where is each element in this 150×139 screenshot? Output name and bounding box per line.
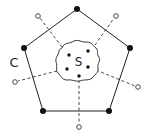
- convex-hull-diagram: S C: [0, 0, 150, 139]
- open-point: [77, 125, 82, 130]
- vertex-point: [106, 108, 112, 114]
- label-outer-set: C: [9, 55, 18, 70]
- ray-left: [18, 71, 57, 81]
- open-point: [114, 14, 119, 19]
- label-inner-set: S: [75, 55, 83, 69]
- diagram-svg: S C: [0, 0, 150, 139]
- inner-point: [86, 49, 89, 52]
- vertex-point: [21, 45, 27, 51]
- open-point: [136, 85, 141, 90]
- vertex-point: [40, 108, 46, 114]
- vertex-point: [127, 45, 133, 51]
- inner-point: [86, 65, 89, 68]
- open-point: [36, 14, 41, 19]
- inner-point: [65, 67, 68, 70]
- ray-right: [96, 70, 135, 86]
- inner-point: [77, 74, 80, 77]
- open-point: [13, 80, 18, 85]
- vertex-point: [74, 6, 80, 12]
- ray-top-right: [95, 18, 114, 45]
- inner-point: [67, 53, 70, 56]
